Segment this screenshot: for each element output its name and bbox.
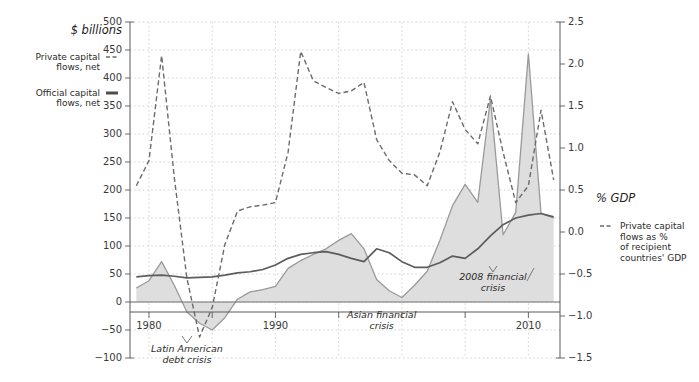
- svg-text:Asian financial: Asian financial: [346, 309, 417, 320]
- legend-right: Private capitalflows as %of recipientcou…: [600, 221, 687, 263]
- svg-text:Latin American: Latin American: [151, 343, 223, 354]
- svg-text:0.0: 0.0: [568, 226, 584, 237]
- svg-text:2.5: 2.5: [568, 16, 584, 27]
- svg-text:−0.5: −0.5: [568, 268, 592, 279]
- svg-text:1990: 1990: [263, 320, 288, 331]
- right-axis: −1.5−1.0−0.50.00.51.01.52.02.5: [556, 16, 592, 363]
- svg-text:flows as %: flows as %: [620, 232, 668, 242]
- svg-text:0: 0: [116, 296, 122, 307]
- svg-text:450: 450: [103, 44, 122, 55]
- svg-text:−1.0: −1.0: [568, 310, 592, 321]
- svg-text:$ billions: $ billions: [71, 23, 122, 37]
- svg-text:crisis: crisis: [370, 320, 394, 331]
- svg-text:150: 150: [103, 212, 122, 223]
- svg-text:−100: −100: [95, 352, 122, 363]
- svg-text:−50: −50: [101, 324, 122, 335]
- right-axis-title: % GDP: [596, 191, 635, 205]
- svg-text:−1.5: −1.5: [568, 352, 592, 363]
- svg-text:400: 400: [103, 72, 122, 83]
- left-axis: −100−50050100150200250300350400450500: [95, 16, 134, 363]
- svg-text:of recipient: of recipient: [620, 242, 671, 252]
- svg-text:1.5: 1.5: [568, 100, 584, 111]
- svg-text:Private capital: Private capital: [36, 52, 100, 62]
- svg-text:250: 250: [103, 156, 122, 167]
- svg-text:debt crisis: debt crisis: [162, 354, 211, 365]
- svg-text:2010: 2010: [516, 320, 541, 331]
- svg-text:300: 300: [103, 128, 122, 139]
- svg-text:50: 50: [109, 268, 122, 279]
- svg-text:1980: 1980: [136, 320, 161, 331]
- capital-flows-chart: −100−50050100150200250300350400450500−1.…: [0, 0, 699, 382]
- svg-text:flows, net: flows, net: [56, 98, 100, 108]
- svg-text:Official capital: Official capital: [36, 88, 100, 98]
- svg-text:flows, net: flows, net: [56, 62, 100, 72]
- left-axis-title: $ billions: [71, 23, 122, 37]
- svg-text:2.0: 2.0: [568, 58, 584, 69]
- svg-text:countries' GDP: countries' GDP: [620, 253, 687, 263]
- latin-crisis-leader: [182, 336, 192, 343]
- svg-text:350: 350: [103, 100, 122, 111]
- svg-text:0.5: 0.5: [568, 184, 584, 195]
- svg-text:crisis: crisis: [481, 282, 505, 293]
- svg-text:1.0: 1.0: [568, 142, 584, 153]
- svg-text:2008 financial: 2008 financial: [459, 271, 527, 282]
- svg-text:100: 100: [103, 240, 122, 251]
- annotation-asian-financial-crisis: Asian financialcrisis: [346, 309, 417, 331]
- svg-text:Private capital: Private capital: [620, 221, 684, 231]
- svg-text:200: 200: [103, 184, 122, 195]
- svg-text:% GDP: % GDP: [596, 191, 635, 205]
